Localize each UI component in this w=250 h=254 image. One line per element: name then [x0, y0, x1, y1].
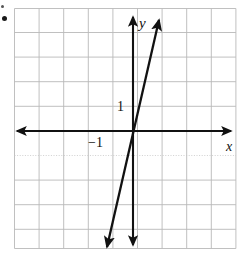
x-axis-label: x — [226, 140, 232, 154]
grid-vertical-lines — [15, 9, 236, 249]
coordinate-plane-svg — [0, 0, 250, 254]
graph-figure: y x 1 −1 — [0, 0, 250, 254]
x-unit-tick-label: −1 — [88, 136, 103, 150]
grid-horizontal-lines — [15, 9, 236, 249]
y-unit-tick-label: 1 — [117, 100, 124, 114]
y-axis-label: y — [139, 16, 146, 31]
